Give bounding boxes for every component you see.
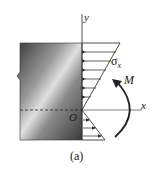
stress-subscript: x — [117, 61, 121, 70]
x-axis-label: x — [141, 100, 146, 111]
origin-label: O — [69, 112, 77, 123]
figure-caption: (a) — [70, 150, 83, 162]
stress-label: σx — [111, 55, 121, 70]
beam-section — [17, 43, 82, 140]
moment-label: M — [124, 74, 134, 86]
y-axis-label: y — [84, 12, 89, 23]
moment-arrow — [112, 79, 130, 137]
